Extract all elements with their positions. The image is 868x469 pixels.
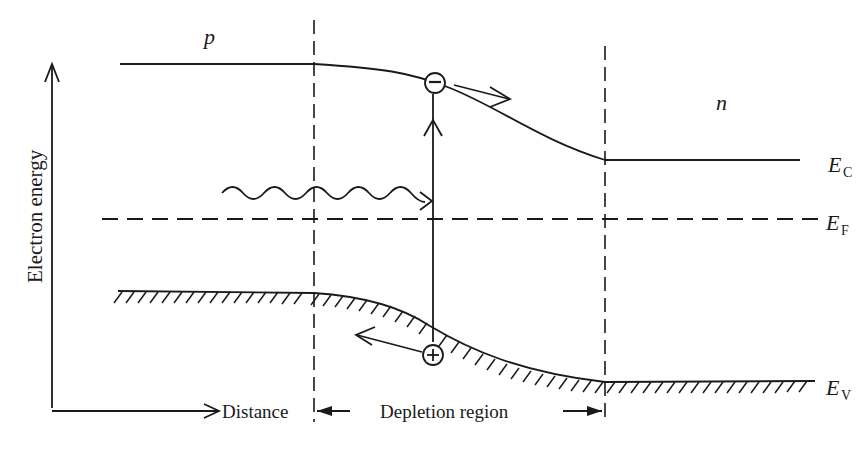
svg-text:E: E [825, 375, 840, 400]
svg-text:E: E [825, 210, 840, 235]
hole-icon [423, 345, 443, 365]
x-axis-label: Distance [222, 401, 288, 422]
p-region-label: p [202, 24, 215, 49]
y-axis-label: Electron energy [23, 149, 47, 283]
conduction-band-edge [120, 64, 800, 160]
svg-text:C: C [843, 165, 852, 180]
ef-label: E F [825, 210, 849, 238]
ec-label: E C [827, 152, 852, 180]
y-axis [45, 64, 59, 408]
x-axis [52, 404, 219, 418]
n-region-label: n [716, 90, 727, 115]
svg-text:E: E [827, 152, 842, 177]
hole-drift-arrow [356, 327, 422, 352]
ev-label: E V [825, 375, 851, 403]
pn-junction-band-diagram: Electron energy Distance p n Depletion r… [0, 0, 868, 469]
svg-text:F: F [841, 223, 849, 238]
excitation-arrow [424, 94, 442, 342]
svg-text:V: V [841, 388, 851, 403]
valence-band-edge [118, 291, 815, 382]
depletion-region-label: Depletion region [380, 401, 509, 422]
electron-icon [425, 73, 445, 93]
photon-wavy-arrow [222, 187, 432, 210]
